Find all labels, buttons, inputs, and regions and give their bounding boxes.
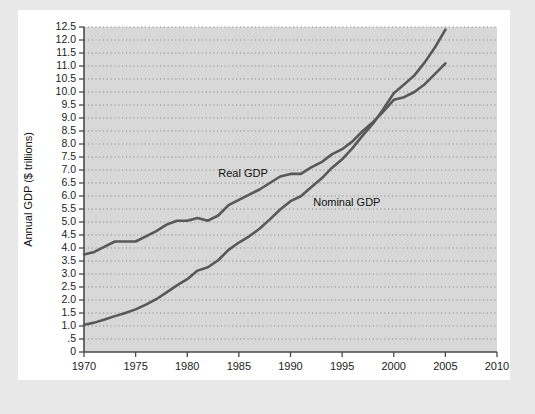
y-tick-label: 5.5 — [61, 202, 76, 214]
series-label-real-gdp: Real GDP — [218, 167, 268, 179]
y-tick-label: 4.0 — [61, 241, 76, 253]
y-tick-label: 12.0 — [56, 33, 77, 45]
x-tick-label: 1970 — [72, 360, 96, 372]
y-tick-label: 8.0 — [61, 137, 76, 149]
y-tick-label: .5 — [67, 332, 76, 344]
x-tick-label: 1990 — [278, 360, 302, 372]
y-axis-tick-labels: 0.51.01.52.02.53.03.54.04.55.05.56.06.57… — [56, 20, 77, 357]
y-tick-label: 7.0 — [61, 163, 76, 175]
y-tick-label: 1.0 — [61, 319, 76, 331]
y-tick-label: 8.5 — [61, 124, 76, 136]
y-tick-label: 6.0 — [61, 189, 76, 201]
y-tick-label: 7.5 — [61, 150, 76, 162]
y-axis-title: Annual GDP ($ trillions) — [22, 132, 34, 247]
y-tick-label: 9.5 — [61, 98, 76, 110]
y-tick-label: 11.5 — [56, 46, 76, 58]
y-tick-label: 4.5 — [61, 228, 76, 240]
gdp-line-chart: 0.51.01.52.02.53.03.54.04.55.05.56.06.57… — [18, 10, 510, 380]
x-tick-label: 2010 — [485, 360, 509, 372]
y-tick-label: 3.0 — [61, 267, 76, 279]
y-tick-label: 2.0 — [61, 293, 76, 305]
y-tick-label: 10.5 — [56, 72, 77, 84]
chart-card: 0.51.01.52.02.53.03.54.04.55.05.56.06.57… — [18, 10, 510, 380]
y-tick-label: 12.5 — [56, 20, 77, 32]
y-tick-label: 2.5 — [61, 280, 76, 292]
x-tick-label: 1980 — [175, 360, 199, 372]
y-tick-label: 1.5 — [61, 306, 76, 318]
series-label-nominal-gdp: Nominal GDP — [313, 196, 380, 208]
y-tick-label: 3.5 — [61, 254, 76, 266]
x-tick-label: 1975 — [123, 360, 147, 372]
y-tick-label: 10.0 — [56, 85, 77, 97]
y-tick-label: 6.5 — [61, 176, 76, 188]
y-tick-label: 9.0 — [61, 111, 76, 123]
y-tick-label: 5.0 — [61, 215, 76, 227]
x-tick-label: 2005 — [433, 360, 457, 372]
x-tick-label: 2000 — [382, 360, 406, 372]
y-tick-label: 11.0 — [56, 59, 76, 71]
y-tick-label: 0 — [70, 345, 76, 357]
x-tick-label: 1985 — [227, 360, 251, 372]
x-axis-tick-labels: 197019751980198519901995200020052010 — [72, 360, 509, 372]
x-tick-label: 1995 — [330, 360, 354, 372]
